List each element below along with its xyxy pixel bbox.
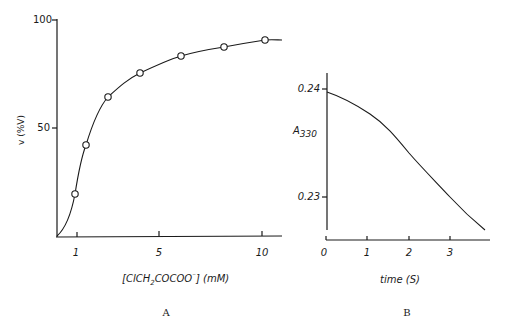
- panel-b-curve: [327, 92, 485, 230]
- panel-b-xtick-label: 1: [364, 247, 370, 258]
- panel-a-fit-curve: [57, 40, 282, 236]
- panel-a-ytick-label: 50: [37, 122, 50, 133]
- panel-b-xtick-label: 0: [321, 247, 327, 258]
- data-point: [83, 142, 89, 148]
- panel-a-data-markers: [72, 37, 268, 197]
- panel-b-xtick-label: 2: [406, 247, 412, 258]
- data-point: [178, 53, 184, 59]
- panel-b: 0.24 0.23 0 1 2 3 A330 time (S) B: [292, 73, 490, 318]
- panel-a-xtick-label: 10: [256, 247, 269, 258]
- data-point: [72, 191, 78, 197]
- data-point: [262, 37, 268, 43]
- panel-b-ytick-label: 0.23: [298, 191, 320, 202]
- panel-b-xtick-label: 3: [447, 247, 453, 258]
- panel-a-x-axis: [56, 236, 282, 237]
- figure: 50 100 1 5 10 v (%V) [ClCH2COCOO⁻] (mM) …: [0, 0, 506, 336]
- panel-a-xtick-label: 5: [156, 247, 162, 258]
- data-point: [137, 70, 143, 76]
- panel-b-y-label: A330: [292, 125, 317, 139]
- panel-b-x-label: time (S): [380, 274, 420, 285]
- panel-a-x-label: [ClCH2COCOO⁻] (mM): [122, 272, 229, 287]
- data-point: [105, 94, 111, 100]
- panel-b-label: B: [403, 307, 410, 318]
- panel-a-y-label: v (%V): [16, 115, 26, 145]
- panel-a: 50 100 1 5 10 v (%V) [ClCH2COCOO⁻] (mM) …: [16, 14, 282, 318]
- panel-b-ytick-label: 0.24: [298, 83, 320, 94]
- panel-a-xtick-label: 1: [73, 247, 79, 258]
- panel-a-label: A: [161, 307, 170, 318]
- panel-a-ytick-label: 100: [33, 14, 52, 25]
- data-point: [221, 44, 227, 50]
